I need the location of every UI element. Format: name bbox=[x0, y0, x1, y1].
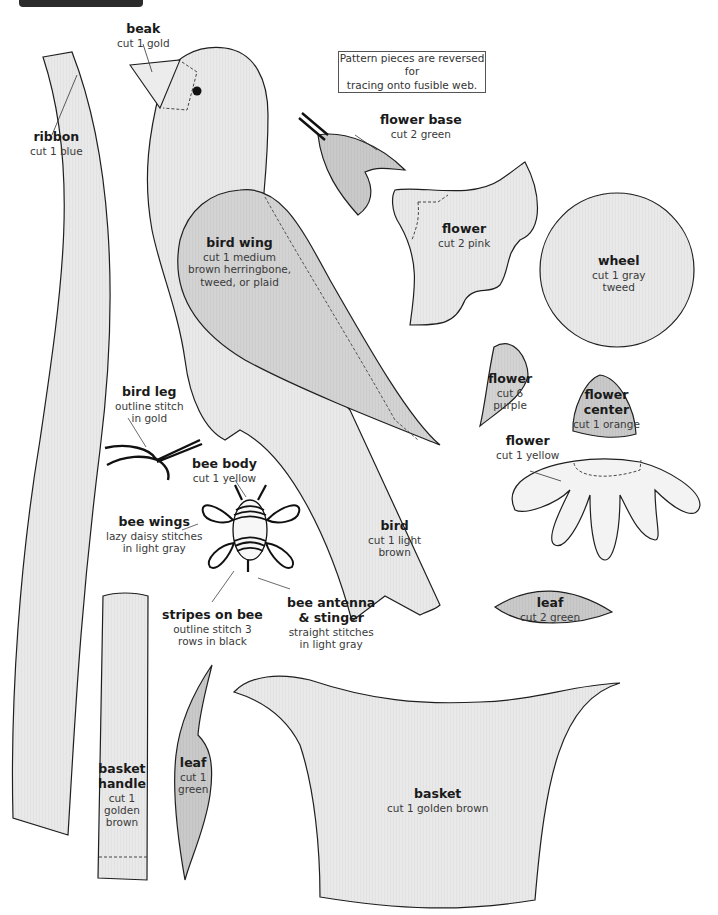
label-stripes-on-bee: stripes on bee outline stitch 3 rows in … bbox=[162, 608, 263, 648]
label-basket-handle: basket handle cut 1 golden brown bbox=[98, 762, 146, 829]
ribbon-piece bbox=[12, 52, 110, 835]
note-line-2: tracing onto fusible web. bbox=[339, 79, 485, 92]
label-flower-yellow: flower cut 1 yellow bbox=[496, 434, 559, 461]
label-leaf-small: leaf cut 2 green bbox=[520, 596, 580, 623]
label-bee-wings: bee wings lazy daisy stitches in light g… bbox=[106, 515, 202, 555]
label-wheel: wheel cut 1 gray tweed bbox=[592, 254, 646, 294]
label-bird-leg: bird leg outline stitch in gold bbox=[115, 385, 184, 425]
flower-base-piece bbox=[318, 134, 405, 215]
label-bee-body: bee body cut 1 yellow bbox=[192, 457, 257, 484]
bird-eye bbox=[193, 87, 202, 96]
label-flower-pink: flower cut 2 pink bbox=[438, 222, 490, 249]
label-leaf-tall: leaf cut 1 green bbox=[178, 756, 208, 796]
note-line-1: Pattern pieces are reversed for bbox=[339, 52, 485, 78]
label-basket: basket cut 1 golden brown bbox=[387, 787, 488, 814]
bee-drawing bbox=[203, 485, 300, 572]
bird-leg-stitch bbox=[105, 440, 202, 480]
label-bird: bird cut 1 light brown bbox=[368, 519, 421, 559]
pattern-sheet: Pattern pieces are reversed for tracing … bbox=[0, 0, 718, 915]
label-flower-base: flower base cut 2 green bbox=[380, 113, 462, 140]
label-flower-center: flower center cut 1 orange bbox=[573, 388, 640, 430]
label-bird-wing: bird wing cut 1 medium brown herringbone… bbox=[188, 236, 291, 288]
label-ribbon: ribbon cut 1 blue bbox=[30, 130, 83, 157]
tracing-note: Pattern pieces are reversed for tracing … bbox=[338, 51, 486, 93]
label-beak: beak cut 1 gold bbox=[117, 22, 170, 49]
label-bee-antenna: bee antenna & stinger straight stitches … bbox=[287, 596, 375, 650]
basket-handle-piece bbox=[98, 593, 148, 880]
label-flower-purple: flower cut 6 purple bbox=[488, 372, 532, 412]
